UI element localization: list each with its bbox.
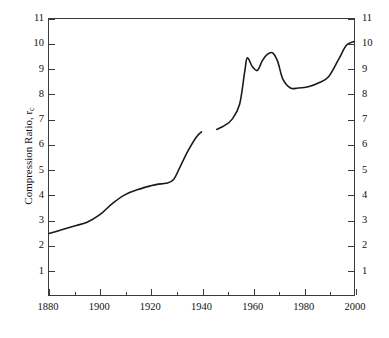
plot-area [48,18,355,296]
y-tick-label-right-7: 7 [362,114,386,125]
data-line-group [49,19,354,295]
y-tick-1 [49,271,55,272]
y-tick-2 [348,246,354,247]
compression-ratio-chart: Compression Ratio, rc 112233445566778899… [0,0,389,338]
y-tick-11 [348,19,354,20]
x-tick-label-1940: 1940 [180,302,224,313]
y-tick-label-right-6: 6 [362,139,386,150]
y-tick-label-right-10: 10 [362,38,386,49]
y-tick-5 [49,170,55,171]
y-tick-label-left-9: 9 [20,64,44,75]
y-tick-label-left-1: 1 [20,266,44,277]
y-tick-7 [49,120,55,121]
y-tick-9 [49,69,55,70]
y-tick-label-right-2: 2 [362,240,386,251]
y-tick-3 [348,221,354,222]
y-tick-label-left-4: 4 [20,190,44,201]
x-tick-1920 [151,289,152,295]
y-tick-9 [348,69,354,70]
y-tick-10 [49,44,55,45]
x-tick-2000 [356,289,357,295]
y-tick-label-right-11: 11 [362,13,386,24]
y-tick-3 [49,221,55,222]
y-tick-2 [49,246,55,247]
x-minor-tick-1890 [75,292,76,295]
y-tick-label-right-9: 9 [362,64,386,75]
y-tick-label-left-7: 7 [20,114,44,125]
y-tick-label-right-5: 5 [362,165,386,176]
y-tick-6 [49,145,55,146]
x-tick-1900 [100,289,101,295]
x-minor-tick-1970 [279,292,280,295]
x-tick-1880 [49,289,50,295]
y-tick-label-left-8: 8 [20,89,44,100]
x-tick-label-1880: 1880 [26,302,70,313]
y-tick-8 [348,94,354,95]
y-tick-label-left-2: 2 [20,240,44,251]
y-tick-label-right-3: 3 [362,215,386,226]
y-tick-label-right-8: 8 [362,89,386,100]
x-minor-tick-1950 [228,292,229,295]
y-tick-8 [49,94,55,95]
x-tick-1960 [254,289,255,295]
x-tick-label-1980: 1980 [282,302,326,313]
y-tick-6 [348,145,354,146]
x-minor-tick-1910 [126,292,127,295]
x-tick-label-1920: 1920 [128,302,172,313]
x-tick-1980 [305,289,306,295]
y-tick-11 [49,19,55,20]
x-tick-label-1960: 1960 [231,302,275,313]
x-tick-1940 [203,289,204,295]
y-tick-10 [348,44,354,45]
x-minor-tick-1930 [177,292,178,295]
y-tick-5 [348,170,354,171]
y-tick-1 [348,271,354,272]
y-tick-label-left-11: 11 [20,13,44,24]
data-line-postwar [217,42,354,130]
y-tick-7 [348,120,354,121]
x-minor-tick-1990 [330,292,331,295]
y-axis-title-subscript: c [27,107,36,111]
y-tick-label-right-1: 1 [362,266,386,277]
y-tick-4 [49,195,55,196]
y-tick-label-left-6: 6 [20,139,44,150]
x-tick-label-2000: 2000 [333,302,377,313]
x-tick-label-1900: 1900 [77,302,121,313]
y-tick-label-left-5: 5 [20,165,44,176]
y-tick-label-left-3: 3 [20,215,44,226]
data-line-prewar [49,132,202,234]
y-tick-label-left-10: 10 [20,38,44,49]
y-tick-4 [348,195,354,196]
y-tick-label-right-4: 4 [362,190,386,201]
y-axis-title: Compression Ratio, rc [22,76,34,236]
